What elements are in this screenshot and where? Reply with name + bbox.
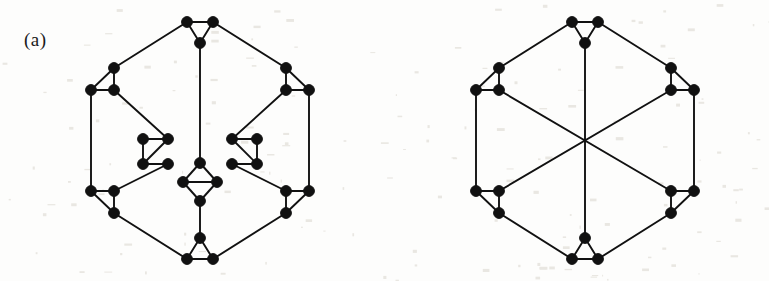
paper-speck — [735, 219, 741, 222]
paper-speck — [413, 250, 417, 253]
graph-node — [227, 134, 238, 145]
paper-speck — [260, 171, 264, 172]
graph-edge — [499, 213, 572, 259]
paper-speck — [43, 213, 47, 216]
paper-speck — [80, 271, 85, 273]
paper-speck — [452, 157, 457, 158]
paper-speck — [306, 219, 312, 222]
graph-node — [494, 186, 505, 197]
paper-speck — [285, 142, 289, 145]
paper-speck — [563, 236, 566, 238]
paper-speck — [370, 52, 375, 53]
paper-speck — [265, 262, 267, 265]
paper-speck — [286, 19, 294, 22]
graph-node — [689, 85, 700, 96]
graph-edge — [499, 22, 572, 68]
paper-speck — [661, 45, 666, 48]
paper-speck — [757, 139, 761, 140]
paper-speck — [43, 92, 46, 93]
paper-speck — [616, 66, 624, 69]
paper-speck — [676, 104, 680, 107]
graph-node — [471, 186, 482, 197]
graph-node — [666, 63, 677, 74]
paper-speck — [765, 207, 769, 210]
graph-node — [494, 63, 505, 74]
paper-speck — [292, 95, 296, 96]
paper-speck — [699, 273, 700, 275]
graph-edge — [598, 213, 671, 259]
paper-speck — [182, 171, 183, 174]
graph-node — [138, 134, 149, 145]
graph-node — [494, 208, 505, 219]
paper-speck — [145, 271, 147, 274]
paper-speck — [211, 31, 219, 34]
paper-speck — [140, 107, 143, 109]
paper-speck — [663, 146, 668, 148]
paper-speck — [9, 199, 11, 201]
graph-node — [86, 85, 97, 96]
graph-node — [109, 186, 120, 197]
paper-speck — [225, 191, 231, 194]
paper-speck — [688, 28, 695, 31]
paper-speck — [254, 26, 261, 28]
graph-node — [195, 38, 206, 49]
paper-speck — [697, 180, 701, 182]
paper-speck — [195, 75, 198, 77]
graph-node — [471, 85, 482, 96]
paper-speck — [739, 189, 743, 191]
graph-node — [304, 85, 315, 96]
paper-speck — [639, 21, 643, 24]
paper-speck — [465, 126, 467, 129]
paper-speck — [184, 233, 186, 236]
paper-speck — [352, 233, 354, 236]
paper-speck — [580, 226, 581, 229]
paper-speck — [124, 244, 132, 246]
graph-edges — [91, 22, 694, 259]
paper-speck — [565, 269, 572, 270]
paper-speck — [67, 79, 73, 82]
graph-node — [182, 17, 193, 28]
paper-speck — [438, 196, 442, 199]
paper-speck — [563, 246, 570, 249]
graph-canvas — [0, 0, 769, 281]
paper-speck — [455, 47, 461, 49]
paper-speck — [184, 243, 185, 246]
paper-speck — [515, 81, 518, 84]
paper-speck — [252, 65, 257, 67]
graph-node — [304, 186, 315, 197]
paper-speck — [549, 267, 555, 270]
paper-speck — [568, 105, 576, 108]
paper-speck — [545, 157, 552, 160]
graph-node — [252, 134, 263, 145]
graph-nodes — [86, 17, 700, 265]
paper-speck — [282, 145, 290, 146]
paper-speck — [717, 152, 721, 154]
graph-node — [567, 254, 578, 265]
paper-speck — [174, 61, 177, 64]
graph-node — [567, 17, 578, 28]
graph-node — [666, 208, 677, 219]
paper-speck — [590, 199, 597, 202]
paper-speck — [120, 253, 122, 255]
paper-speck — [383, 276, 386, 279]
paper-speck — [723, 185, 727, 188]
paper-speck — [558, 69, 561, 71]
paper-speck — [36, 252, 38, 254]
paper-speck — [69, 127, 73, 130]
paper-speck — [381, 142, 389, 144]
paper-speck — [507, 168, 514, 169]
graph-node — [666, 186, 677, 197]
graph-edge — [598, 22, 671, 68]
paper-speck — [267, 154, 274, 156]
paper-speck — [536, 277, 541, 280]
paper-speck — [483, 68, 488, 69]
paper-speck — [398, 116, 403, 118]
paper-speck — [753, 24, 755, 26]
paper-speck — [343, 187, 345, 190]
paper-speck — [607, 279, 608, 281]
paper-speck — [99, 193, 105, 195]
paper-speck — [396, 94, 397, 96]
paper-speck — [748, 132, 750, 134]
paper-speck — [323, 231, 325, 232]
graph-node — [195, 233, 206, 244]
